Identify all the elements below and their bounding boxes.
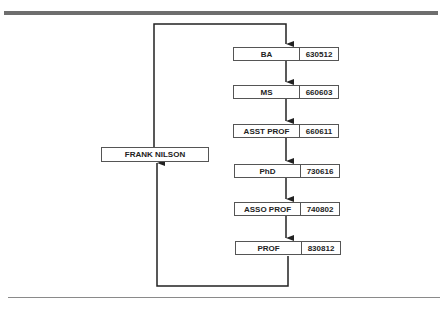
step-code: 730616 (301, 165, 339, 177)
step-code: 740802 (301, 203, 339, 215)
step-ba: BA 630512 (233, 47, 339, 61)
bottom-rule (8, 297, 440, 298)
step-ms: MS 660603 (233, 85, 339, 99)
step-code: 630512 (300, 48, 338, 60)
connector-lines (0, 0, 447, 309)
step-label: BA (234, 48, 300, 60)
step-code: 660611 (300, 125, 338, 137)
step-prof: PROF 830812 (235, 241, 341, 255)
step-label: ASST PROF (234, 125, 300, 137)
step-label: PROF (236, 242, 302, 254)
step-label: ASSO PROF (235, 203, 301, 215)
person-box: FRANK NILSON (101, 147, 209, 162)
step-code: 660603 (300, 86, 338, 98)
step-asst-prof: ASST PROF 660611 (233, 124, 339, 138)
step-label: MS (234, 86, 300, 98)
step-label: PhD (235, 165, 301, 177)
step-code: 830812 (302, 242, 340, 254)
step-asso-prof: ASSO PROF 740802 (234, 202, 340, 216)
step-phd: PhD 730616 (234, 164, 340, 178)
